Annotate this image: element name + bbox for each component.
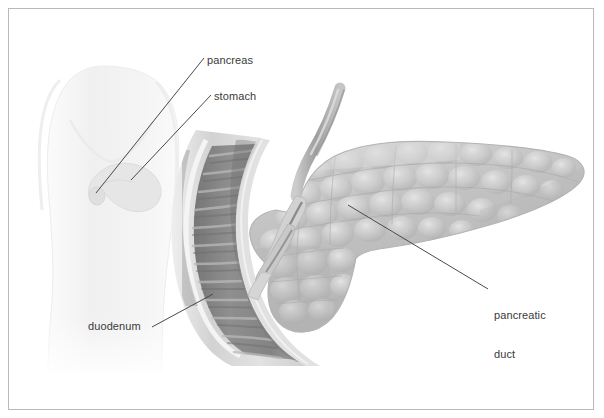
label-stomach: stomach bbox=[214, 90, 256, 103]
label-pancreatic-duct-line1: pancreatic bbox=[494, 309, 546, 322]
label-pancreas: pancreas bbox=[207, 54, 253, 67]
label-duodenum: duodenum bbox=[88, 320, 141, 333]
label-pancreatic-duct-line2: duct bbox=[494, 348, 546, 361]
label-pancreatic-duct: pancreatic duct bbox=[494, 283, 546, 387]
illustration-figure: pancreas stomach duodenum pancreatic duc… bbox=[0, 0, 604, 418]
